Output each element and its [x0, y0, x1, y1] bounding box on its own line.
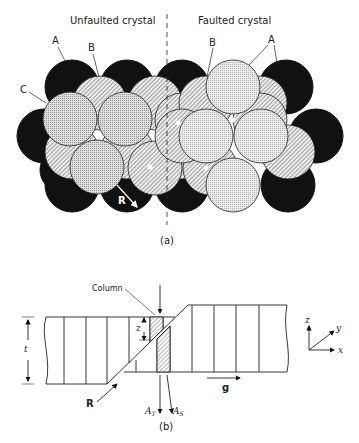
figure-a: Unfaulted crystal Faulted crystal [17, 14, 343, 246]
label-b-left: B [88, 42, 95, 53]
axis-z-label: z [304, 315, 310, 325]
label-c-left: C [20, 84, 27, 95]
z-label: z [135, 323, 141, 333]
label-a-right: A [268, 34, 275, 45]
r-label: R [86, 398, 94, 409]
figure-canvas: Unfaulted crystal Faulted crystal [0, 0, 359, 443]
column-label: Column [92, 284, 123, 293]
axis-x-label: x [338, 345, 343, 355]
g-label: g [222, 382, 229, 393]
label-b-right: B [209, 37, 216, 48]
unfaulted-crystal-title: Unfaulted crystal [70, 15, 156, 26]
figure-b-labels: Column z t R g AT AS (b) z y x [24, 284, 343, 432]
axis-y-label: y [335, 323, 342, 333]
figure-b [22, 285, 334, 413]
as-label: AS [172, 406, 184, 417]
label-a-left: A [52, 35, 59, 46]
faulted-crystal-title: Faulted crystal [198, 15, 271, 26]
at-label: AT [144, 406, 157, 417]
caption-b: (b) [159, 421, 173, 432]
scattered-beam-arrow [167, 375, 172, 413]
label-r: R [118, 195, 126, 206]
caption-a: (a) [160, 235, 174, 246]
t-label: t [24, 344, 28, 354]
